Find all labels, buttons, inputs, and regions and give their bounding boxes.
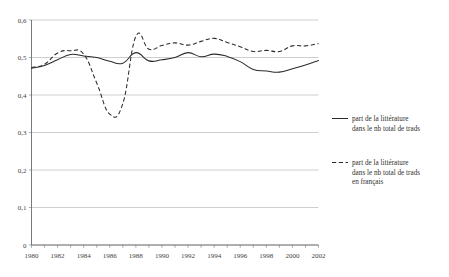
x-tick-label: 1992: [181, 252, 196, 260]
y-tick-label: 0,6: [18, 17, 27, 25]
x-tick-label: 1996: [233, 252, 248, 260]
legend-label: part de la littérature: [352, 159, 408, 167]
legend-label: dans le nb total de trads: [352, 169, 420, 177]
chart-figure: 00,10,20,30,40,50,6 19801982198419861988…: [0, 0, 449, 277]
y-tick-label: 0,4: [18, 92, 27, 100]
x-axis-labels-group: 1980198219841986198819901992199419961998…: [25, 252, 327, 260]
series-line-dashed: [32, 33, 319, 117]
line-chart: 00,10,20,30,40,50,6 19801982198419861988…: [0, 0, 449, 277]
y-tick-label: 0,3: [18, 129, 27, 137]
x-tick-label: 1988: [129, 252, 144, 260]
legend-label: en français: [352, 178, 384, 186]
x-tick-label: 1986: [103, 252, 118, 260]
y-tick-label: 0,5: [18, 54, 27, 62]
y-axis-labels-group: 00,10,20,30,40,50,6: [18, 17, 27, 250]
x-tick-label: 1984: [77, 252, 92, 260]
x-tick-label: 1994: [207, 252, 222, 260]
x-tick-label: 1990: [155, 252, 170, 260]
x-tick-label: 2002: [312, 252, 327, 260]
legend-label: dans le nb total de trads: [352, 125, 420, 133]
y-tick-label: 0: [23, 242, 27, 250]
gridlines-group: [32, 20, 319, 245]
x-tick-label: 1998: [259, 252, 274, 260]
chart-legend: part de la littératuredans le nb total d…: [332, 115, 420, 186]
x-tick-label: 1980: [25, 252, 40, 260]
series-line-solid: [32, 53, 319, 73]
y-tick-label: 0,1: [18, 204, 27, 212]
legend-label: part de la littérature: [352, 115, 408, 123]
y-tick-label: 0,2: [18, 167, 27, 175]
x-tick-label: 2000: [285, 252, 300, 260]
x-tick-label: 1982: [51, 252, 66, 260]
